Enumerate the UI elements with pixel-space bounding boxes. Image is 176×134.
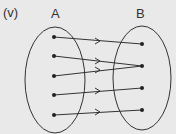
arrow-a4-b3 (54, 88, 142, 95)
arrowhead-icon (95, 38, 100, 44)
mapping-diagram (0, 0, 176, 134)
set-b-point (140, 42, 144, 46)
set-a-point (52, 74, 56, 78)
set-b-point (140, 108, 144, 112)
set-a-point (52, 113, 56, 117)
arrowhead-icon (95, 88, 100, 94)
arrow-a2-b2 (54, 56, 142, 66)
arrowhead-icon (95, 109, 100, 115)
set-a-point (52, 93, 56, 97)
points (52, 35, 144, 117)
set-b-point (140, 64, 144, 68)
set-a-ellipse (25, 27, 85, 133)
set-a-point (52, 35, 56, 39)
arrowhead-icon (95, 67, 100, 73)
set-b-point (140, 86, 144, 90)
set-a-point (52, 54, 56, 58)
arrows (54, 37, 142, 115)
set-b-ellipse (113, 26, 171, 130)
arrow-a1-b1 (54, 37, 142, 44)
